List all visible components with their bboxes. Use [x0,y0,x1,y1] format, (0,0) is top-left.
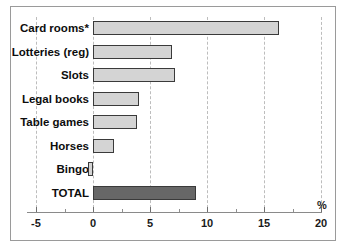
chart-frame: -505101520 % Card rooms*Lotteries (reg)S… [10,6,336,241]
x-tick-label: 15 [244,217,284,230]
bar-card-rooms [93,21,279,35]
bar-row: Slots [11,64,337,88]
x-tick-label: -5 [16,217,56,230]
bar-row: Bingo [11,158,337,182]
x-axis-line [27,212,322,213]
bar-label-horses: Horses [11,135,89,159]
bar-label-table-games: Table games [11,111,89,135]
bar-label-slots: Slots [11,64,89,88]
bar-slots [93,68,175,82]
x-tick-label: 20 [301,217,341,230]
bar-row: Table games [11,111,337,135]
bar-label-bingo: Bingo [11,158,89,182]
plot-area: -505101520 % Card rooms*Lotteries (reg)S… [11,7,337,242]
bar-label-total: TOTAL [11,182,89,206]
bar-label-card-rooms: Card rooms* [11,17,89,41]
x-tick-label: 5 [130,217,170,230]
bar-lotteries-reg [93,45,172,59]
bar-row: Lotteries (reg) [11,41,337,65]
bar-bingo [88,162,93,176]
bar-label-legal-books: Legal books [11,88,89,112]
bar-legal-books [93,92,139,106]
bar-horses [93,139,114,153]
bar-row: Card rooms* [11,17,337,41]
bar-total [93,186,196,200]
bar-row: Legal books [11,88,337,112]
bar-table-games [93,115,137,129]
bar-label-lotteries-reg: Lotteries (reg) [11,41,89,65]
bar-row: TOTAL [11,182,337,206]
x-tick-label: 10 [187,217,227,230]
bar-row: Horses [11,135,337,159]
x-tick-label: 0 [73,217,113,230]
